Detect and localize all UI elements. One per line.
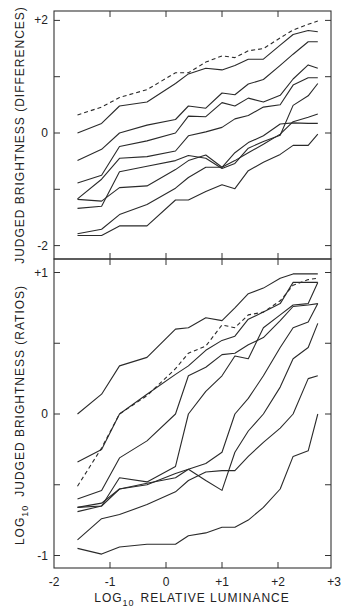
- y-tick-label: 0: [41, 126, 48, 140]
- xlabel-log: LOG: [94, 591, 122, 605]
- x-axis-label: LOG10RELATIVE LUMINANCE: [94, 591, 290, 608]
- bottom-series-dashed: [78, 278, 318, 486]
- bottom-panel: +10-1-2-10+1+2+3 LOG10JUDGED BRIGHTNESS …: [13, 259, 341, 589]
- xlabel-sub: 10: [123, 598, 135, 608]
- bottom-series-9: [78, 414, 318, 554]
- bottom-series-group: [78, 274, 318, 554]
- top-series-G: [78, 123, 318, 234]
- y-tick-label: 0: [41, 407, 48, 421]
- bottom-series-6: [78, 304, 318, 508]
- y-tick-label: -2: [37, 239, 48, 253]
- figure: +20-2 JUDGED BRIGHTNESS (DIFFERENCES) +1…: [0, 0, 348, 610]
- top-y-axis-label: JUDGED BRIGHTNESS (DIFFERENCES): [13, 6, 27, 264]
- x-tick-label: -2: [49, 575, 60, 589]
- bottom-y-axis-label: LOG10JUDGED BRIGHTNESS (RATIOS): [13, 285, 30, 545]
- bottom-series-3: [78, 282, 318, 462]
- bottom-series-7: [78, 323, 318, 511]
- bottom-ylabel-log: LOG: [13, 517, 27, 545]
- bottom-series-5: [78, 282, 318, 507]
- x-tick-label: +1: [215, 575, 229, 589]
- xlabel-rest: RELATIVE LUMINANCE: [141, 591, 290, 605]
- top-series-group: [78, 21, 318, 236]
- x-tick-label: 0: [163, 575, 170, 589]
- bottom-plot-frame: [54, 259, 331, 568]
- top-ticks: +20-2: [34, 11, 331, 259]
- top-series-dashed: [78, 21, 318, 115]
- top-series-F: [78, 114, 318, 201]
- y-tick-label: +2: [34, 13, 48, 27]
- top-series-A: [78, 31, 318, 134]
- bottom-ylabel-rest: JUDGED BRIGHTNESS (RATIOS): [13, 285, 27, 497]
- x-tick-label: +3: [327, 575, 341, 589]
- bottom-ticks: +10-1-2-10+1+2+3: [34, 259, 341, 589]
- bottom-ylabel-sub: 10: [20, 505, 30, 517]
- y-tick-label: +1: [34, 266, 48, 280]
- bottom-series-1: [78, 274, 318, 414]
- bottom-series-8: [78, 376, 318, 540]
- top-panel: +20-2 JUDGED BRIGHTNESS (DIFFERENCES): [13, 6, 331, 264]
- x-tick-label: -1: [105, 575, 116, 589]
- top-series-H: [78, 134, 318, 235]
- x-tick-label: +2: [271, 575, 285, 589]
- y-tick-label: -1: [37, 549, 48, 563]
